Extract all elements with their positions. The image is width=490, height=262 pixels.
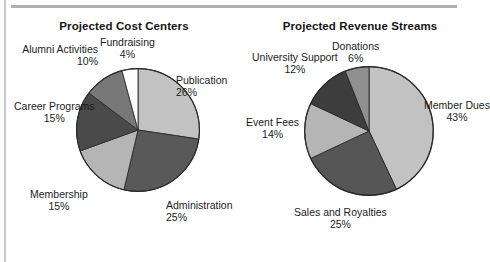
pie-slice-label: Sales and Royalties25% xyxy=(294,206,387,231)
pie-slice-label-name: Administration xyxy=(166,199,233,211)
pie-slice-label-name: Publication xyxy=(176,74,227,86)
pie-slice-label-value: 6% xyxy=(332,52,379,64)
pie-slice-label-value: 12% xyxy=(252,63,338,75)
pie-slice-label-value: 25% xyxy=(166,211,233,223)
pie-slice-label: University Support12% xyxy=(252,51,338,76)
pie-slice-label-name: University Support xyxy=(252,51,338,63)
pie-slice-label: Administration25% xyxy=(166,199,233,224)
chart-panel-projected-revenue-streams: Projected Revenue Streams Member Dues43%… xyxy=(242,0,478,262)
pie-slice-label: Alumni Activities10% xyxy=(6,43,98,68)
pie-slice-label-value: 15% xyxy=(30,200,88,212)
pie-slice-label: Event Fees14% xyxy=(246,116,299,141)
pie-slice-label-value: 25% xyxy=(294,218,387,230)
pie-slice-label: Publication26% xyxy=(176,74,227,99)
chart-panel-projected-cost-centers: Projected Cost Centers Publication26%Adm… xyxy=(6,0,242,262)
chart-title-cost-centers: Projected Cost Centers xyxy=(6,20,242,32)
pie-slice-label: Membership15% xyxy=(30,188,88,213)
chart-title-revenue-streams: Projected Revenue Streams xyxy=(242,20,478,32)
pie-slice-label-name: Career Programs xyxy=(14,100,95,112)
pie-slice-label: Member Dues43% xyxy=(424,99,490,124)
pie-slice-label-value: 15% xyxy=(14,112,95,124)
pie-slice-label-name: Alumni Activities xyxy=(6,43,98,55)
pie-slice-label-name: Fundraising xyxy=(100,36,155,48)
pie-slice-label-name: Event Fees xyxy=(246,116,299,128)
pie-chart-revenue-streams xyxy=(302,64,436,198)
pie-slice-label-name: Sales and Royalties xyxy=(294,206,387,218)
pie-slice-label: Donations6% xyxy=(332,40,379,65)
pie-slice-label-name: Membership xyxy=(30,188,88,200)
pie-slice-label-value: 4% xyxy=(100,48,155,60)
pie-slice-label-name: Member Dues xyxy=(424,99,490,111)
pie-slice-label-value: 14% xyxy=(246,128,299,140)
pie-svg-revenue-streams xyxy=(302,64,436,198)
pie-slice-label: Fundraising4% xyxy=(100,36,155,61)
pie-slice-label-name: Donations xyxy=(332,40,379,52)
pie-slice-label: Career Programs15% xyxy=(14,100,95,125)
pie-slice-label-value: 43% xyxy=(424,111,490,123)
pie-slice-label-value: 10% xyxy=(6,55,98,67)
pie-slice-label-value: 26% xyxy=(176,86,227,98)
